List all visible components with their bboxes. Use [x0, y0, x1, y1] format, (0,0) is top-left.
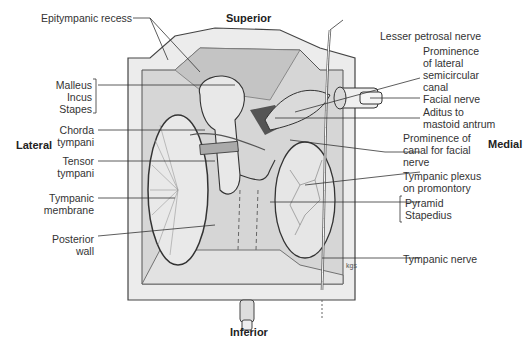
label-prominence-canal-facial-nerve: Prominence ofcanal for facial nerve [403, 132, 471, 168]
label-aditus-mastoid-antrum: Aditus tomastoid antrum [423, 106, 495, 130]
label-prominence-lateral-semicircular-canal: Prominenceof lateral semicircularcanal [423, 45, 479, 93]
label-malleus: Malleus [40, 79, 92, 91]
label-chorda-tympani: Chordatympani [40, 124, 94, 148]
label-superior: Superior [226, 12, 271, 24]
label-tensor-tympani: Tensortympani [40, 155, 94, 179]
label-facial-nerve: Facial nerve [423, 93, 480, 105]
label-incus: Incus [40, 91, 92, 103]
label-tympanic-nerve: Tympanic nerve [403, 253, 477, 265]
label-tympanic-plexus: Tympanic plexuson promontory [403, 170, 481, 194]
label-posterior-wall: Posteriorwall [30, 233, 94, 257]
label-inferior: Inferior [230, 326, 268, 338]
label-epitympanic-recess: Epitympanic recess [41, 12, 132, 24]
label-ossicles: Malleus Incus Stapes [40, 79, 92, 115]
label-stapes: Stapes [40, 103, 92, 115]
label-medial: Medial [488, 138, 522, 150]
label-tympanic-membrane: Tympanicmembrane [30, 192, 94, 216]
label-lesser-petrosal-nerve: Lesser petrosal nerve [380, 30, 481, 42]
label-pyramid-stapedius: PyramidStapedius [405, 197, 452, 221]
artist-signature: kgs [346, 262, 357, 270]
